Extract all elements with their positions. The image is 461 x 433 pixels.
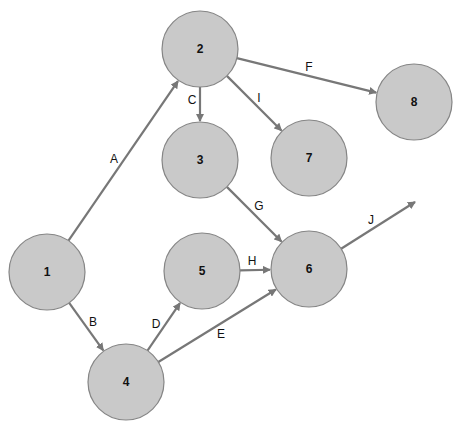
node-5: 5 bbox=[164, 233, 240, 309]
edges-layer bbox=[68, 58, 415, 362]
edge-label: C bbox=[188, 93, 197, 107]
node-1: 1 bbox=[9, 234, 85, 310]
arrow-icon bbox=[240, 270, 270, 271]
node-label: 1 bbox=[44, 265, 51, 279]
node-label: 4 bbox=[123, 375, 130, 389]
edge-label: H bbox=[248, 254, 257, 268]
edge-i bbox=[227, 76, 282, 131]
network-diagram: 12345678 ABCDEFGHIJ bbox=[0, 0, 461, 433]
node-label: 8 bbox=[411, 95, 418, 109]
node-8: 8 bbox=[376, 64, 452, 140]
edge-j bbox=[341, 202, 415, 249]
node-6: 6 bbox=[271, 231, 347, 307]
edge-label: B bbox=[89, 315, 97, 329]
edge-label: F bbox=[305, 60, 312, 74]
node-2: 2 bbox=[162, 11, 238, 87]
nodes-layer: 12345678 bbox=[9, 11, 452, 420]
arrow-icon bbox=[341, 202, 415, 249]
edge-label: D bbox=[152, 317, 161, 331]
edge-label: G bbox=[254, 199, 263, 213]
edge-label: J bbox=[368, 213, 374, 227]
edge-label: E bbox=[217, 327, 225, 341]
node-label: 6 bbox=[306, 262, 313, 276]
edge-g bbox=[227, 187, 282, 242]
arrow-icon bbox=[227, 187, 282, 242]
node-label: 2 bbox=[197, 42, 204, 56]
node-7: 7 bbox=[271, 120, 347, 196]
node-label: 3 bbox=[197, 153, 204, 167]
node-4: 4 bbox=[88, 344, 164, 420]
edge-h bbox=[240, 270, 270, 271]
node-label: 7 bbox=[306, 151, 313, 165]
edge-label: A bbox=[110, 152, 118, 166]
edge-label: I bbox=[257, 91, 260, 105]
node-3: 3 bbox=[162, 122, 238, 198]
arrow-icon bbox=[69, 303, 103, 350]
edge-b bbox=[69, 303, 103, 350]
node-label: 5 bbox=[199, 264, 206, 278]
arrow-icon bbox=[227, 76, 282, 131]
